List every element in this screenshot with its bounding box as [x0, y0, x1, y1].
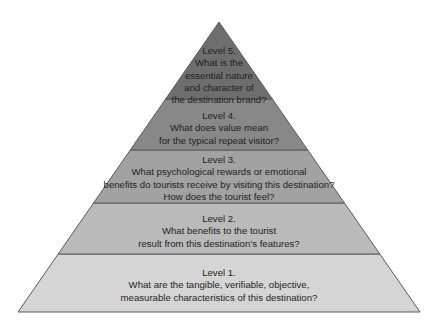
level-3-label: Level 3.What psychological rewards or em… — [104, 154, 335, 203]
level-2-label: Level 2.What benefits to the touristresu… — [138, 213, 299, 250]
level-2-title: Level 2. — [138, 213, 299, 225]
level-5-title: Level 5. — [172, 45, 267, 57]
level-3-question-line: What psychological rewards or emotional — [104, 166, 335, 178]
level-3-title: Level 3. — [104, 154, 335, 166]
level-2-question-line: What benefits to the tourist — [138, 225, 299, 237]
level-4-label: Level 4.What does value meanfor the typi… — [159, 110, 279, 147]
level-2-question-line: result from this destination’s features? — [138, 238, 299, 250]
level-5-question-line: What is the — [172, 57, 267, 69]
level-5-question-line: the destination brand? — [172, 94, 267, 106]
level-1-label: Level 1.What are the tangible, verifiabl… — [121, 267, 318, 304]
level-5-question-line: and character of — [172, 82, 267, 94]
level-3-question-line: benefits do tourists receive by visiting… — [104, 179, 335, 191]
level-1-title: Level 1. — [121, 267, 318, 279]
level-1-question-line: What are the tangible, verifiable, objec… — [121, 279, 318, 291]
level-4-question-line: for the typical repeat visitor? — [159, 135, 279, 147]
level-5-question-line: essential nature — [172, 70, 267, 82]
level-4-question-line: What does value mean — [159, 122, 279, 134]
level-1-question-line: measurable characteristics of this desti… — [121, 292, 318, 304]
level-3-question-line: How does the tourist feel? — [104, 191, 335, 203]
level-4-title: Level 4. — [159, 110, 279, 122]
level-5-label: Level 5.What is theessential natureand c… — [172, 45, 267, 106]
